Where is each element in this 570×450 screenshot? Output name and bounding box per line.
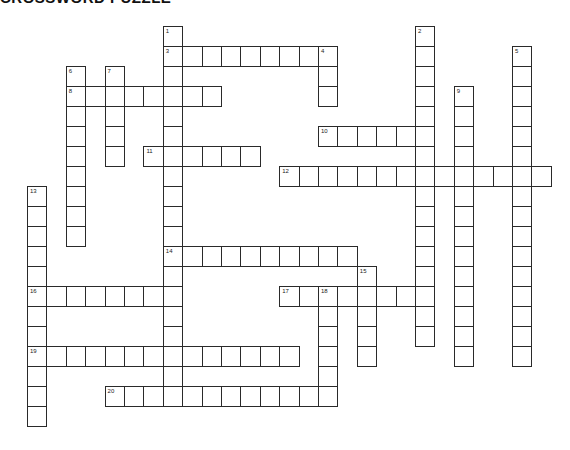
crossword-cell[interactable] [318,306,338,327]
crossword-cell[interactable] [221,46,241,67]
crossword-cell[interactable] [260,346,280,367]
crossword-cell[interactable] [357,166,377,187]
crossword-cell[interactable]: 1 [163,26,183,47]
crossword-cell[interactable] [260,386,280,407]
crossword-cell[interactable] [337,246,357,267]
crossword-cell[interactable] [163,266,183,287]
crossword-cell[interactable] [279,386,299,407]
crossword-cell[interactable]: 8 [66,86,86,107]
crossword-cell[interactable] [512,226,532,247]
crossword-cell[interactable] [163,326,183,347]
crossword-cell[interactable] [163,206,183,227]
crossword-cell[interactable]: 19 [27,346,47,367]
crossword-cell[interactable] [512,346,532,367]
crossword-cell[interactable] [221,146,241,167]
crossword-cell[interactable] [66,186,86,207]
crossword-cell[interactable] [143,86,163,107]
crossword-cell[interactable] [279,46,299,67]
crossword-cell[interactable] [163,286,183,307]
crossword-cell[interactable]: 7 [105,66,125,87]
crossword-cell[interactable] [376,166,396,187]
crossword-cell[interactable] [318,366,338,387]
crossword-cell[interactable] [512,126,532,147]
crossword-cell[interactable] [396,126,416,147]
crossword-cell[interactable] [512,106,532,127]
crossword-cell[interactable] [318,86,338,107]
crossword-cell[interactable] [318,346,338,367]
crossword-cell[interactable] [299,166,319,187]
crossword-cell[interactable] [299,286,319,307]
crossword-cell[interactable] [279,346,299,367]
crossword-cell[interactable] [415,126,435,147]
crossword-cell[interactable] [85,86,105,107]
crossword-cell[interactable] [143,286,163,307]
crossword-cell[interactable] [279,246,299,267]
crossword-cell[interactable] [182,46,202,67]
crossword-cell[interactable] [318,386,338,407]
crossword-cell[interactable]: 13 [27,186,47,207]
crossword-cell[interactable] [318,326,338,347]
crossword-cell[interactable] [202,386,222,407]
crossword-cell[interactable]: 15 [357,266,377,287]
crossword-cell[interactable] [512,326,532,347]
crossword-cell[interactable] [182,146,202,167]
crossword-cell[interactable] [163,386,183,407]
crossword-cell[interactable] [531,166,551,187]
crossword-cell[interactable] [182,246,202,267]
crossword-cell[interactable] [454,306,474,327]
crossword-cell[interactable] [299,46,319,67]
crossword-cell[interactable] [454,326,474,347]
crossword-cell[interactable] [66,126,86,147]
crossword-cell[interactable] [415,86,435,107]
crossword-cell[interactable] [240,386,260,407]
crossword-cell[interactable] [182,386,202,407]
crossword-cell[interactable] [240,246,260,267]
crossword-cell[interactable] [493,166,513,187]
crossword-cell[interactable] [182,346,202,367]
crossword-cell[interactable] [27,226,47,247]
crossword-cell[interactable] [376,126,396,147]
crossword-cell[interactable] [512,146,532,167]
crossword-cell[interactable] [454,206,474,227]
crossword-cell[interactable] [163,226,183,247]
crossword-cell[interactable] [454,146,474,167]
crossword-cell[interactable] [66,106,86,127]
crossword-cell[interactable] [105,126,125,147]
crossword-cell[interactable] [454,246,474,267]
crossword-cell[interactable] [105,286,125,307]
crossword-cell[interactable]: 14 [163,246,183,267]
crossword-cell[interactable]: 18 [318,286,338,307]
crossword-cell[interactable] [318,246,338,267]
crossword-cell[interactable] [66,346,86,367]
crossword-cell[interactable] [105,146,125,167]
crossword-cell[interactable] [46,346,66,367]
crossword-cell[interactable] [415,186,435,207]
crossword-cell[interactable] [415,146,435,167]
crossword-cell[interactable] [105,106,125,127]
crossword-cell[interactable]: 5 [512,46,532,67]
crossword-cell[interactable]: 9 [454,86,474,107]
crossword-cell[interactable] [163,146,183,167]
crossword-cell[interactable]: 17 [279,286,299,307]
crossword-cell[interactable] [357,126,377,147]
crossword-cell[interactable] [415,206,435,227]
crossword-cell[interactable] [512,186,532,207]
crossword-cell[interactable] [337,166,357,187]
crossword-cell[interactable] [454,226,474,247]
crossword-cell[interactable]: 11 [143,146,163,167]
crossword-cell[interactable] [27,306,47,327]
crossword-cell[interactable] [182,86,202,107]
crossword-cell[interactable] [415,46,435,67]
crossword-cell[interactable]: 4 [318,46,338,67]
crossword-cell[interactable] [454,166,474,187]
crossword-cell[interactable] [512,66,532,87]
crossword-cell[interactable] [27,386,47,407]
crossword-cell[interactable] [66,206,86,227]
crossword-cell[interactable] [221,246,241,267]
crossword-cell[interactable] [512,166,532,187]
crossword-cell[interactable] [124,386,144,407]
crossword-cell[interactable] [415,306,435,327]
crossword-cell[interactable] [27,406,47,427]
crossword-cell[interactable] [202,346,222,367]
crossword-cell[interactable] [221,386,241,407]
